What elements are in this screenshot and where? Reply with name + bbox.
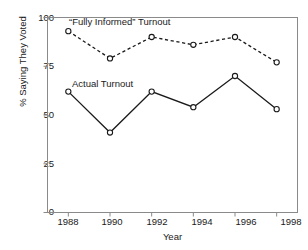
series-actual-turnout [66, 73, 280, 135]
data-point-marker [149, 89, 154, 94]
series-line [68, 76, 276, 133]
data-point-marker [232, 34, 237, 39]
y-tick-marks [44, 18, 48, 213]
series-fully-informed [66, 29, 280, 65]
data-point-marker [232, 73, 237, 78]
data-point-marker [274, 107, 279, 112]
axes-frame [48, 18, 298, 213]
data-point-marker [66, 29, 71, 34]
data-point-marker [191, 105, 196, 110]
series-line [68, 31, 276, 62]
data-point-marker [149, 34, 154, 39]
data-point-marker [274, 60, 279, 65]
x-tick-marks [68, 213, 276, 217]
chart-figure: % Saying They Voted 100 75 50 25 0 1988 … [0, 0, 308, 250]
data-point-marker [66, 89, 71, 94]
data-point-marker [107, 56, 112, 61]
data-point-marker [107, 130, 112, 135]
data-point-marker [191, 42, 196, 47]
plot-area [0, 0, 308, 250]
